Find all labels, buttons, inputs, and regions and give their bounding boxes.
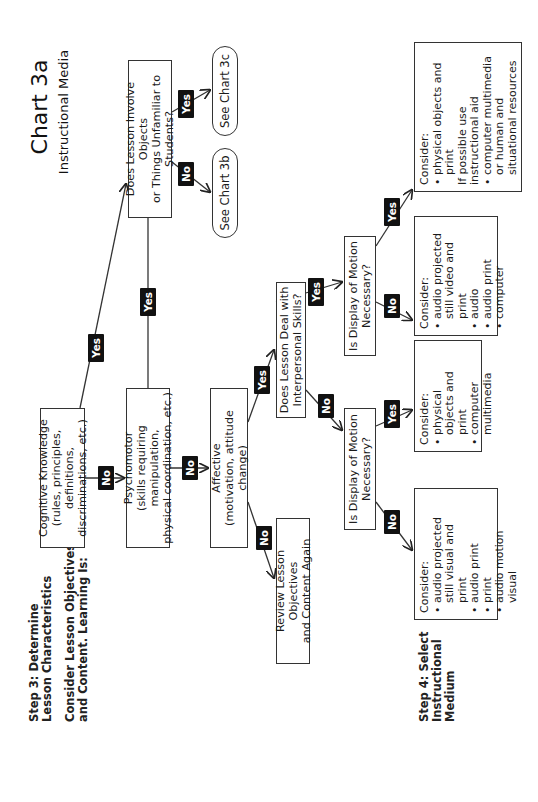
interpersonal-line1: Does Lesson Deal with [278, 287, 291, 414]
edge-label-no: No [384, 294, 400, 318]
psychomotor-line1: Psychomotor [122, 432, 135, 505]
cognitive-knowledge-box: Cognitive Knowledge (rules, principles, … [40, 408, 85, 548]
edge-label-no: No [182, 456, 198, 480]
review-line2: and Content Again [300, 539, 313, 643]
consider-item: computer multimedia or human and situati… [482, 49, 520, 185]
interpersonal-line2: Interpersonal Skills? [291, 294, 304, 407]
review-objectives-box: Review Lesson Objectives and Content Aga… [276, 518, 310, 664]
psychomotor-line2: (skills requiring manipulation, [135, 389, 161, 547]
motion-question-left-box: Is Display of Motion Necessary? [344, 408, 376, 530]
step4-label: Step 4: Select Instructional Medium [418, 612, 457, 722]
objects-line1: Does Lesson Involve Objects [124, 61, 150, 217]
consider-box-4: Consider: physical objects and print If … [414, 42, 522, 192]
consider-item: physical objects and print [432, 49, 457, 185]
step3-prompt-line2: and Content. Learning Is: [77, 542, 90, 722]
motion-question-right-box: Is Display of Motion Necessary? [344, 236, 376, 356]
consider-box-2: Consider: physical objects and print com… [414, 340, 482, 452]
consider-item: audio projected still video and print [432, 223, 470, 329]
edge-label-no: No [256, 526, 272, 550]
consider-item: audio [469, 223, 482, 329]
affective-line2: (motivation, attitude change) [223, 389, 249, 547]
step3-title-line2: Lesson Characteristics [41, 552, 54, 722]
chart-subtitle: Instructional Media [56, 42, 71, 182]
edge-label-yes: Yes [178, 90, 194, 118]
consider-item: audio print [469, 495, 482, 613]
step3-label: Step 3: Determine Lesson Characteristics [28, 552, 54, 722]
consider-item: audio motion visual [494, 495, 519, 613]
step4-line3: Medium [444, 612, 457, 722]
consider-heading: Consider: [419, 223, 432, 329]
see-chart-3b-link[interactable]: See Chart 3b [212, 148, 238, 238]
see-chart-3c-link[interactable]: See Chart 3c [212, 46, 238, 136]
edge-label-yes: Yes [254, 366, 270, 394]
affective-line1: Affective [210, 443, 223, 492]
edge-label-no: No [98, 466, 114, 490]
flowchart-page: Chart 3a Instructional Media Step 3: Det… [0, 0, 538, 802]
consider-box-1: Consider: audio projected still visual a… [414, 488, 498, 620]
motion-left-line2: Necessary? [360, 437, 373, 501]
objects-line2: or Things Unfamiliar to [150, 75, 163, 203]
cognitive-line1: Cognitive Knowledge [37, 419, 50, 537]
consider-item: audio projected still visual and print [432, 495, 470, 613]
consider-item: physical objects and print [432, 347, 470, 445]
objects-line3: Students? [163, 111, 176, 167]
edge-label-yes: Yes [384, 400, 400, 428]
edge-label-yes: Yes [88, 334, 104, 362]
edge-label-no: No [384, 510, 400, 534]
edge-label-no: No [178, 162, 194, 186]
consider-box-3: Consider: audio projected still video an… [414, 216, 498, 336]
consider-item: computer multimedia [469, 347, 494, 445]
review-line1: Review Lesson Objectives [274, 519, 300, 663]
consider-heading: Consider: [419, 347, 432, 445]
edge-label-yes: Yes [140, 288, 156, 316]
chart-title: Chart 3a [28, 52, 52, 162]
edge-label-yes: Yes [384, 198, 400, 226]
motion-left-line1: Is Display of Motion [347, 414, 360, 524]
psychomotor-box: Psychomotor (skills requiring manipulati… [126, 388, 170, 548]
cognitive-line3: discriminations, etc.) [76, 419, 89, 537]
motion-right-line1: Is Display of Motion [347, 241, 360, 351]
consider-note: If possible use instructional aid [457, 49, 482, 185]
objects-question-box: Does Lesson Involve Objects or Things Un… [128, 60, 172, 218]
edge-label-yes: Yes [308, 278, 324, 306]
edge-label-no: No [318, 394, 334, 418]
step3-prompt: Consider Lesson Objectives and Content. … [64, 542, 90, 722]
cognitive-line2: (rules, principles, definitions, [50, 409, 76, 547]
consider-item: computer [494, 223, 507, 329]
consider-heading: Consider: [419, 495, 432, 613]
affective-box: Affective (motivation, attitude change) [210, 388, 248, 548]
motion-right-line2: Necessary? [360, 264, 373, 328]
psychomotor-line3: physical coordination, etc.) [161, 392, 174, 544]
interpersonal-question-box: Does Lesson Deal with Interpersonal Skil… [276, 282, 306, 418]
consider-heading: Consider: [419, 49, 432, 185]
